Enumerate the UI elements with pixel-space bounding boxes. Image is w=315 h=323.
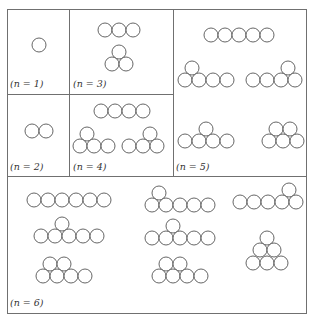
circle-icon xyxy=(276,134,290,148)
panel-n3 xyxy=(98,23,140,71)
circle-icon xyxy=(90,229,104,243)
circle-icon xyxy=(126,23,140,37)
circle-icon xyxy=(152,269,166,283)
circle-icon xyxy=(98,23,112,37)
label-n4: (n = 4) xyxy=(73,161,107,172)
label-n5: (n = 5) xyxy=(176,161,210,172)
circle-icon xyxy=(73,139,87,153)
circle-icon xyxy=(246,256,260,270)
circle-icon xyxy=(260,73,274,87)
circle-icon xyxy=(150,139,164,153)
circle-icon xyxy=(253,243,267,257)
circle-icon xyxy=(87,139,101,153)
circle-icon xyxy=(194,269,208,283)
panel-n2 xyxy=(25,124,53,138)
circle-icon xyxy=(262,134,276,148)
circle-icon xyxy=(233,195,247,209)
circle-icon xyxy=(288,73,302,87)
circle-icon xyxy=(48,229,62,243)
circle-icon xyxy=(76,229,90,243)
circle-icon xyxy=(69,193,83,207)
circle-icon xyxy=(290,134,304,148)
circle-icon xyxy=(97,193,111,207)
circle-icon xyxy=(78,269,92,283)
circle-icon xyxy=(122,104,136,118)
circle-icon xyxy=(64,269,78,283)
circle-icon xyxy=(204,28,218,42)
panel-n1 xyxy=(32,38,46,52)
circle-icon xyxy=(50,269,64,283)
circle-icon xyxy=(289,195,303,209)
circle-icon xyxy=(62,229,76,243)
circle-icon xyxy=(275,195,289,209)
circle-icon xyxy=(101,139,115,153)
circle-icon xyxy=(136,104,150,118)
circle-icon xyxy=(180,269,194,283)
circle-icon xyxy=(187,231,201,245)
circle-icon xyxy=(83,193,97,207)
circle-icon xyxy=(108,104,122,118)
circle-icon xyxy=(260,28,274,42)
circle-icon xyxy=(34,229,48,243)
circle-icon xyxy=(122,139,136,153)
circle-icon xyxy=(55,193,69,207)
circle-icon xyxy=(39,124,53,138)
circle-icon xyxy=(260,256,274,270)
circle-icon xyxy=(119,57,133,71)
circle-icon xyxy=(192,73,206,87)
label-n3: (n = 3) xyxy=(73,78,107,89)
circle-icon xyxy=(206,134,220,148)
panel-n6 xyxy=(27,183,303,283)
circle-icon xyxy=(274,73,288,87)
circle-arrangements xyxy=(25,23,304,283)
circle-icon xyxy=(201,231,215,245)
circle-icon xyxy=(232,28,246,42)
circle-icon xyxy=(246,73,260,87)
circle-icon xyxy=(247,195,261,209)
circle-icon xyxy=(173,231,187,245)
panel-n5 xyxy=(178,28,304,148)
label-n1: (n = 1) xyxy=(10,78,44,89)
circle-icon xyxy=(218,28,232,42)
circle-icon xyxy=(173,198,187,212)
circle-icon xyxy=(94,104,108,118)
circle-icon xyxy=(136,139,150,153)
circle-icon xyxy=(178,134,192,148)
label-n2: (n = 2) xyxy=(10,161,44,172)
circle-icon xyxy=(178,73,192,87)
circle-icon xyxy=(192,134,206,148)
circle-icon xyxy=(261,195,275,209)
circle-icon xyxy=(159,198,173,212)
circle-icon xyxy=(201,198,215,212)
circle-icon xyxy=(166,269,180,283)
circle-icon xyxy=(25,124,39,138)
circle-icon xyxy=(27,193,41,207)
circle-icon xyxy=(41,193,55,207)
circle-icon xyxy=(105,57,119,71)
circle-icon xyxy=(274,256,288,270)
circle-icon xyxy=(32,38,46,52)
circle-icon xyxy=(145,231,159,245)
circle-icon xyxy=(187,198,201,212)
circle-icon xyxy=(112,23,126,37)
circle-configurations-diagram: (n = 1) (n = 2) (n = 3) (n = 4) (n = 5) … xyxy=(0,0,315,323)
circle-icon xyxy=(220,73,234,87)
label-n6: (n = 6) xyxy=(10,297,44,308)
circle-icon xyxy=(145,198,159,212)
panel-n4 xyxy=(73,104,164,153)
circle-icon xyxy=(206,73,220,87)
circle-icon xyxy=(220,134,234,148)
circle-icon xyxy=(267,243,281,257)
circle-icon xyxy=(36,269,50,283)
circle-icon xyxy=(159,231,173,245)
circle-icon xyxy=(246,28,260,42)
